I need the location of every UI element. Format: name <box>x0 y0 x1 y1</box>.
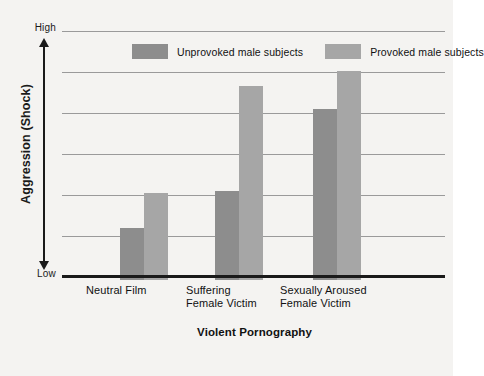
x-axis-tick-label-line: Sexually Aroused <box>280 284 367 297</box>
bar <box>337 71 361 280</box>
legend-item-provoked: Provoked male subjects <box>325 44 484 59</box>
x-axis-title: Violent Pornography <box>0 326 453 338</box>
legend-swatch-icon-provoked <box>325 44 361 59</box>
x-axis-tick-label-line: Suffering <box>186 284 257 297</box>
bar <box>313 109 337 280</box>
arrow-down-icon <box>39 261 49 270</box>
x-axis-tick-label-line: Neutral Film <box>86 284 147 297</box>
legend-item-unprovoked: Unprovoked male subjects <box>132 44 303 59</box>
x-axis-tick-label: Neutral Film <box>86 284 147 297</box>
x-axis-tick-label-line: Female Victim <box>186 297 257 310</box>
plot-area <box>62 28 445 280</box>
bar <box>144 193 168 280</box>
bar <box>239 86 263 280</box>
y-axis-title: Aggression (Shock) <box>19 44 33 244</box>
legend-swatch-icon-unprovoked <box>132 44 168 59</box>
bar <box>120 228 144 280</box>
y-axis-high-label: High <box>0 22 56 33</box>
gridline <box>62 72 445 73</box>
bar <box>215 191 239 280</box>
y-axis: High Low Aggression (Shock) <box>0 0 62 300</box>
gridline <box>62 31 445 32</box>
x-axis-tick-label: SufferingFemale Victim <box>186 284 257 310</box>
legend-label-provoked: Provoked male subjects <box>370 46 484 58</box>
x-axis-tick-label: Sexually ArousedFemale Victim <box>280 284 367 310</box>
y-axis-double-arrow-icon <box>37 38 51 270</box>
legend-label-unprovoked: Unprovoked male subjects <box>177 46 303 58</box>
arrow-shaft <box>43 44 45 264</box>
x-axis-baseline <box>62 275 445 278</box>
chart-legend: Unprovoked male subjects Provoked male s… <box>132 44 484 59</box>
x-axis-tick-label-line: Female Victim <box>280 297 367 310</box>
